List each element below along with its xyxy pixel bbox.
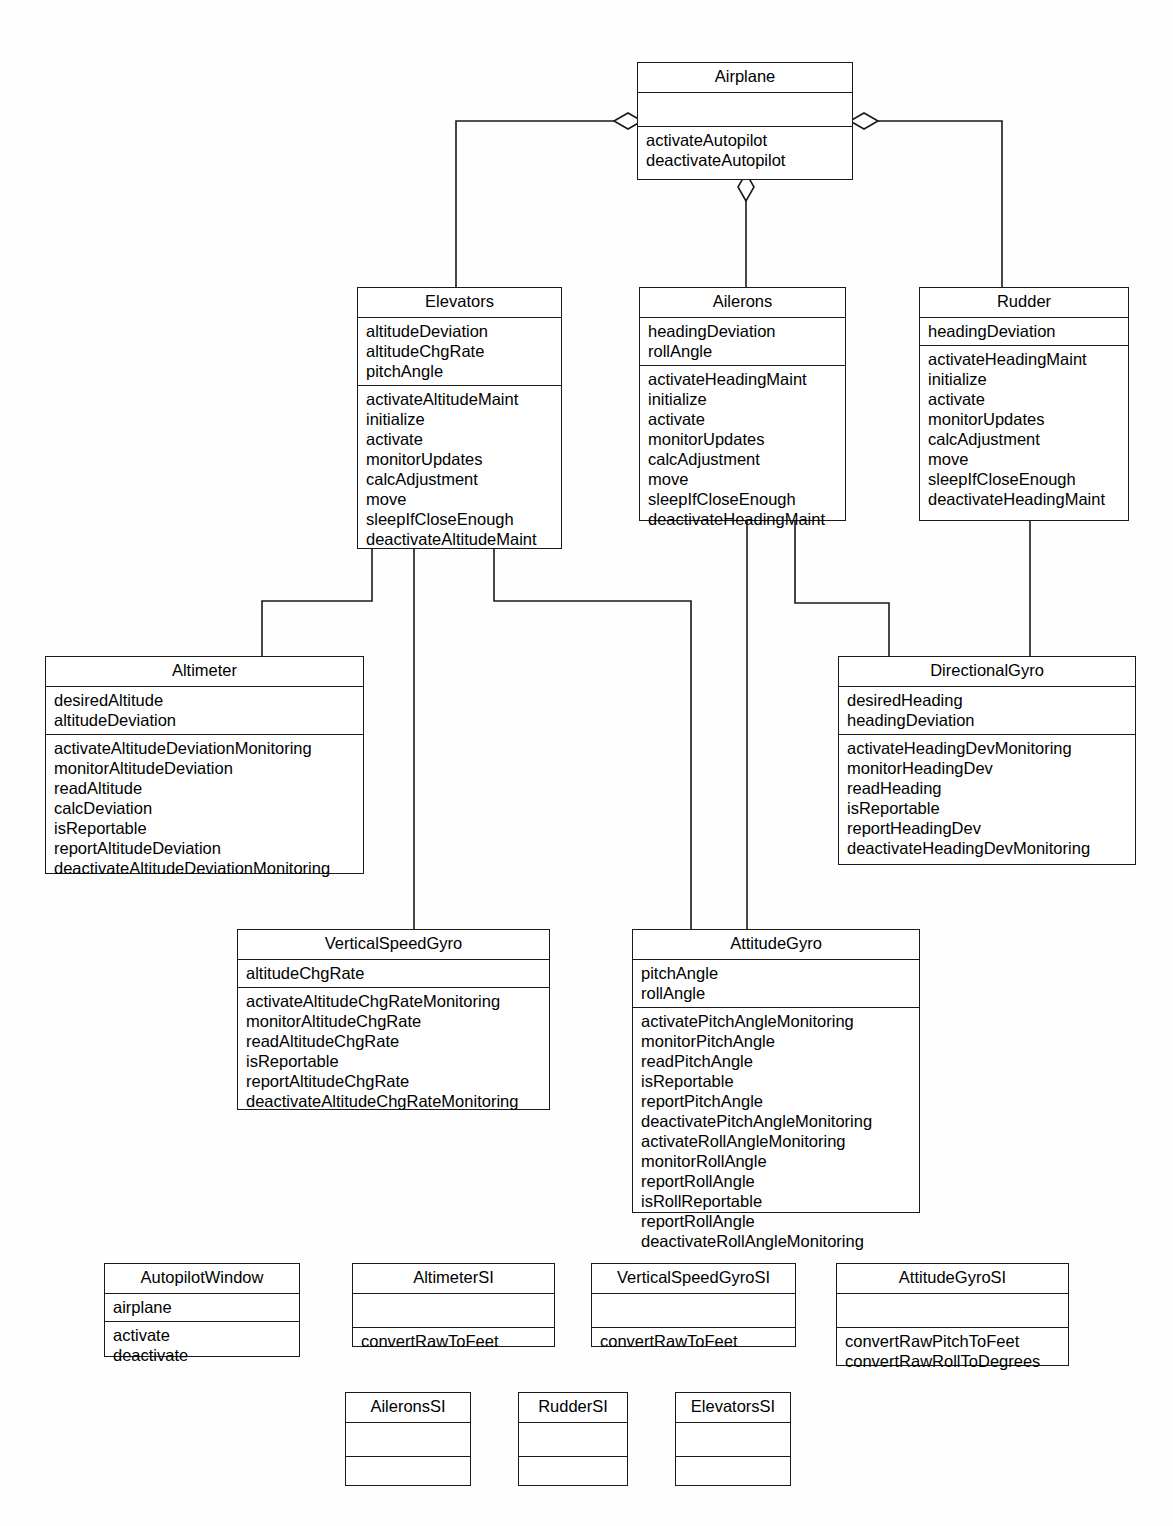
class-box-elevatorssi[interactable]: ElevatorsSI (675, 1392, 791, 1486)
attribute-row: desiredAltitude (54, 690, 357, 710)
class-name-verticalspeedgyrosi: VerticalSpeedGyroSI (592, 1264, 795, 1294)
edge-elevators-altimeter (262, 549, 372, 657)
operation-row: deactivateHeadingDevMonitoring (847, 838, 1129, 858)
operation-row: deactivateAutopilot (646, 150, 846, 170)
operation-row: activateRollAngleMonitoring (641, 1131, 913, 1151)
class-box-ailerons[interactable]: Ailerons headingDeviation rollAngle acti… (639, 287, 846, 521)
operation-row: move (928, 449, 1122, 469)
operation-row: monitorRollAngle (641, 1151, 913, 1171)
operation-row: activate (648, 409, 839, 429)
operation-row: reportAltitudeDeviation (54, 838, 357, 858)
operation-row: calcDeviation (54, 798, 357, 818)
operation-row: reportPitchAngle (641, 1091, 913, 1111)
attribute-row: headingDeviation (648, 321, 839, 341)
class-box-airplane[interactable]: Airplane activateAutopilot deactivateAut… (637, 62, 853, 180)
class-name-airplane: Airplane (638, 63, 852, 93)
edge-ailerons-directionalgyro (795, 521, 889, 657)
operation-row: deactivateRollAngleMonitoring (641, 1231, 913, 1251)
class-name-rudder: Rudder (920, 288, 1128, 318)
attribute-row: pitchAngle (366, 361, 555, 381)
class-operations-airplane: activateAutopilot deactivateAutopilot (638, 127, 852, 174)
class-operations-verticalspeedgyrosi: convertRawToFeet (592, 1328, 795, 1355)
class-name-ruddersi: RudderSI (519, 1393, 627, 1423)
attribute-row: altitudeDeviation (54, 710, 357, 730)
class-box-verticalspeedgyrosi[interactable]: VerticalSpeedGyroSI convertRawToFeet (591, 1263, 796, 1347)
operation-row: deactivateAltitudeMaint (366, 529, 555, 549)
class-attributes-verticalspeedgyro: altitudeChgRate (238, 960, 549, 988)
operation-row: monitorAltitudeDeviation (54, 758, 357, 778)
class-operations-directionalgyro: activateHeadingDevMonitoring monitorHead… (839, 735, 1135, 862)
class-operations-elevators: activateAltitudeMaint initialize activat… (358, 386, 561, 553)
operation-row: activateAutopilot (646, 130, 846, 150)
operation-row: activateHeadingMaint (928, 349, 1122, 369)
class-operations-elevatorssi (676, 1457, 790, 1491)
class-operations-altimetersi: convertRawToFeet (353, 1328, 554, 1355)
class-operations-aileronssi (346, 1457, 470, 1491)
operation-row: deactivate (113, 1345, 293, 1365)
attribute-row: headingDeviation (928, 321, 1122, 341)
operation-row: sleepIfCloseEnough (928, 469, 1122, 489)
operation-row: initialize (366, 409, 555, 429)
attribute-row: altitudeChgRate (246, 963, 543, 983)
class-box-elevators[interactable]: Elevators altitudeDeviation altitudeChgR… (357, 287, 562, 549)
operation-row: deactivateHeadingMaint (928, 489, 1122, 509)
class-attributes-airplane (638, 93, 852, 127)
class-name-verticalspeedgyro: VerticalSpeedGyro (238, 930, 549, 960)
class-name-attitudegyro: AttitudeGyro (633, 930, 919, 960)
operation-row: sleepIfCloseEnough (366, 509, 555, 529)
operation-row: activate (928, 389, 1122, 409)
class-box-attitudegyrosi[interactable]: AttitudeGyroSI convertRawPitchToFeet con… (836, 1263, 1069, 1366)
operation-row: sleepIfCloseEnough (648, 489, 839, 509)
operation-row: calcAdjustment (366, 469, 555, 489)
operation-row: isReportable (246, 1051, 543, 1071)
class-name-directionalgyro: DirectionalGyro (839, 657, 1135, 687)
class-attributes-rudder: headingDeviation (920, 318, 1128, 346)
edge-airplane-ailerons (738, 173, 754, 288)
class-attributes-ruddersi (519, 1423, 627, 1457)
class-attributes-altimeter: desiredAltitude altitudeDeviation (46, 687, 363, 735)
operation-row: move (366, 489, 555, 509)
operation-row: monitorUpdates (366, 449, 555, 469)
edge-elevators-attitudegyro (494, 549, 691, 930)
class-box-altimeter[interactable]: Altimeter desiredAltitude altitudeDeviat… (45, 656, 364, 874)
operation-row: reportRollAngle (641, 1211, 913, 1231)
operation-row: monitorAltitudeChgRate (246, 1011, 543, 1031)
class-box-aileronssi[interactable]: AileronsSI (345, 1392, 471, 1486)
operation-row: activatePitchAngleMonitoring (641, 1011, 913, 1031)
operation-row: initialize (928, 369, 1122, 389)
attribute-row: rollAngle (641, 983, 913, 1003)
operation-row: readAltitudeChgRate (246, 1031, 543, 1051)
operation-row: calcAdjustment (648, 449, 839, 469)
edge-airplane-rudder (850, 113, 1002, 288)
edge-airplane-elevators (456, 113, 642, 288)
class-box-altimetersi[interactable]: AltimeterSI convertRawToFeet (352, 1263, 555, 1347)
operation-row: activateAltitudeMaint (366, 389, 555, 409)
class-operations-ruddersi (519, 1457, 627, 1491)
class-name-attitudegyrosi: AttitudeGyroSI (837, 1264, 1068, 1294)
class-box-directionalgyro[interactable]: DirectionalGyro desiredHeading headingDe… (838, 656, 1136, 865)
attribute-row: headingDeviation (847, 710, 1129, 730)
class-box-verticalspeedgyro[interactable]: VerticalSpeedGyro altitudeChgRate activa… (237, 929, 550, 1110)
operation-row: move (648, 469, 839, 489)
operation-row: activateAltitudeChgRateMonitoring (246, 991, 543, 1011)
class-box-autopilotwindow[interactable]: AutopilotWindow airplane activate deacti… (104, 1263, 300, 1357)
class-name-elevators: Elevators (358, 288, 561, 318)
attribute-row: altitudeChgRate (366, 341, 555, 361)
class-box-ruddersi[interactable]: RudderSI (518, 1392, 628, 1486)
operation-row: deactivatePitchAngleMonitoring (641, 1111, 913, 1131)
operation-row: activate (366, 429, 555, 449)
class-attributes-ailerons: headingDeviation rollAngle (640, 318, 845, 366)
class-attributes-elevatorssi (676, 1423, 790, 1457)
class-operations-autopilotwindow: activate deactivate (105, 1322, 299, 1369)
attribute-row: rollAngle (648, 341, 839, 361)
class-attributes-verticalspeedgyrosi (592, 1294, 795, 1328)
class-name-autopilotwindow: AutopilotWindow (105, 1264, 299, 1294)
class-attributes-aileronssi (346, 1423, 470, 1457)
attribute-row: airplane (113, 1297, 293, 1317)
class-name-aileronssi: AileronsSI (346, 1393, 470, 1423)
operation-row: deactivateAltitudeChgRateMonitoring (246, 1091, 543, 1111)
class-operations-attitudegyrosi: convertRawPitchToFeet convertRawRollToDe… (837, 1328, 1068, 1375)
class-box-rudder[interactable]: Rudder headingDeviation activateHeadingM… (919, 287, 1129, 521)
class-box-attitudegyro[interactable]: AttitudeGyro pitchAngle rollAngle activa… (632, 929, 920, 1213)
operation-row: reportAltitudeChgRate (246, 1071, 543, 1091)
